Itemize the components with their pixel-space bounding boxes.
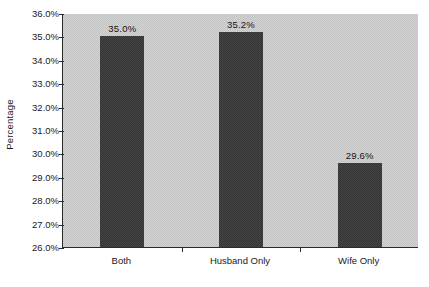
y-tick-mark bbox=[59, 131, 64, 132]
bar-husband-only bbox=[219, 32, 263, 247]
y-tick-label: 26.0% bbox=[16, 243, 59, 253]
y-tick-label: 31.0% bbox=[16, 126, 59, 136]
bar-chart-figure: Percentage 36.0%35.0%34.0%33.0%32.0%31.0… bbox=[0, 0, 429, 287]
x-tick-mark bbox=[300, 247, 301, 252]
bar-wife-only bbox=[338, 163, 382, 247]
y-tick-mark bbox=[59, 225, 64, 226]
y-tick-label: 36.0% bbox=[16, 9, 59, 19]
bar-value-label: 29.6% bbox=[346, 150, 374, 160]
x-tick-label: Husband Only bbox=[210, 256, 270, 266]
plot-area: 35.0%35.2%29.6% bbox=[62, 14, 418, 248]
y-tick-mark bbox=[59, 61, 64, 62]
y-tick-mark bbox=[59, 201, 64, 202]
y-tick-label: 30.0% bbox=[16, 150, 59, 160]
x-tick-label: Both bbox=[112, 256, 132, 266]
y-tick-mark bbox=[59, 108, 64, 109]
y-tick-label: 34.0% bbox=[16, 56, 59, 66]
y-axis-title-label: Percentage bbox=[4, 99, 15, 150]
y-tick-label: 32.0% bbox=[16, 103, 59, 113]
y-tick-mark bbox=[59, 178, 64, 179]
y-tick-label: 27.0% bbox=[16, 220, 59, 230]
y-tick-label: 29.0% bbox=[16, 173, 59, 183]
x-tick-label: Wife Only bbox=[338, 256, 379, 266]
x-tick-mark bbox=[182, 247, 183, 252]
y-tick-label: 33.0% bbox=[16, 79, 59, 89]
y-tick-mark bbox=[59, 14, 64, 15]
y-axis-tick-labels: 36.0%35.0%34.0%33.0%32.0%31.0%30.0%29.0%… bbox=[16, 14, 59, 248]
bar-both bbox=[100, 36, 144, 247]
bar-value-label: 35.2% bbox=[227, 19, 255, 29]
y-tick-label: 28.0% bbox=[16, 196, 59, 206]
bar-value-label: 35.0% bbox=[108, 24, 136, 34]
y-tick-label: 35.0% bbox=[16, 33, 59, 43]
x-axis-tick-labels: BothHusband OnlyWife Only bbox=[62, 256, 418, 272]
y-tick-mark bbox=[59, 154, 64, 155]
y-tick-mark bbox=[59, 37, 64, 38]
y-tick-mark bbox=[59, 248, 64, 249]
y-tick-mark bbox=[59, 84, 64, 85]
